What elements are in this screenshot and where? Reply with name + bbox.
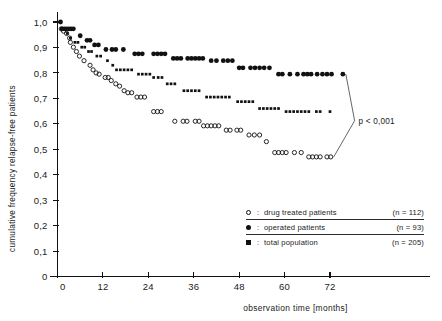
p-value-annotation: p < 0,001 xyxy=(359,117,395,126)
marker-cross xyxy=(170,82,173,85)
marker-cross xyxy=(205,96,208,99)
marker-cross xyxy=(137,73,140,76)
x-tick-label: 36 xyxy=(188,281,199,292)
marker-cross xyxy=(77,41,80,44)
marker-cross xyxy=(69,37,72,40)
marker-cross xyxy=(148,73,151,76)
legend-count-drug-treated: (n = 112) xyxy=(389,208,424,217)
marker-filled-circle xyxy=(248,65,253,70)
marker-filled-circle xyxy=(71,26,76,31)
marker-cross xyxy=(152,76,155,79)
marker-open-circle xyxy=(117,84,121,88)
marker-cross xyxy=(66,32,69,35)
marker-cross xyxy=(123,68,126,71)
marker-cross xyxy=(240,100,243,103)
x-tick-label: 72 xyxy=(325,281,336,292)
marker-cross xyxy=(209,96,212,99)
marker-open-circle xyxy=(252,133,256,137)
y-tick-label: 1,0 xyxy=(34,17,48,28)
marker-cross xyxy=(161,76,164,79)
legend-count-total-population: (n = 205) xyxy=(388,238,424,247)
marker-cross xyxy=(329,110,332,113)
marker-cross xyxy=(289,110,292,113)
marker-cross xyxy=(106,59,109,62)
marker-cross xyxy=(266,107,269,110)
marker-filled-circle xyxy=(340,72,345,77)
x-tick-label: 0 xyxy=(60,281,65,292)
marker-filled-circle xyxy=(200,56,205,61)
y-axis-title: cumulative frequency relapse-free patien… xyxy=(8,85,17,252)
y-tick-label: 0,2 xyxy=(34,220,48,231)
p-value-label: p < 0,001 xyxy=(359,117,395,126)
marker-cross xyxy=(262,107,265,110)
marker-filled-circle xyxy=(280,72,285,77)
marker-open-circle xyxy=(247,133,251,137)
p-value-leader-lines xyxy=(334,74,355,157)
marker-cross xyxy=(315,110,318,113)
marker-cross xyxy=(307,110,310,113)
marker-cross xyxy=(74,41,77,44)
marker-filled-circle xyxy=(320,72,325,77)
marker-cross xyxy=(224,96,227,99)
marker-cross xyxy=(270,107,273,110)
marker-open-circle xyxy=(68,40,72,44)
marker-filled-circle xyxy=(209,58,214,63)
marker-cross xyxy=(319,110,322,113)
legend-label-total-population: total population xyxy=(264,238,388,247)
data-series-group xyxy=(58,20,345,159)
marker-cross xyxy=(145,73,148,76)
y-tick-label: 0 xyxy=(42,271,47,282)
marker-cross xyxy=(273,107,276,110)
x-tick-label: 48 xyxy=(234,281,245,292)
legend-separator-1: : xyxy=(257,208,264,217)
marker-filled-circle xyxy=(214,58,219,63)
marker-filled-circle xyxy=(58,20,63,25)
marker-open-circle xyxy=(74,49,78,53)
marker-cross xyxy=(157,76,160,79)
marker-cross xyxy=(285,110,288,113)
marker-cross xyxy=(236,100,239,103)
marker-filled-circle xyxy=(78,33,83,38)
marker-filled-circle xyxy=(253,65,258,70)
marker-open-circle xyxy=(258,133,262,137)
marker-filled-circle xyxy=(295,72,300,77)
marker-filled-circle xyxy=(88,38,93,43)
y-tick-label: 0,3 xyxy=(34,195,48,206)
x-axis-title-text: observation time [months] xyxy=(243,303,348,313)
marker-cross xyxy=(213,96,216,99)
p-value-leader-line xyxy=(346,74,355,121)
marker-filled-circle xyxy=(329,72,334,77)
marker-cross xyxy=(99,55,102,58)
y-axis-title-wrapper: cumulative frequency relapse-free patien… xyxy=(6,62,20,252)
marker-cross xyxy=(304,110,307,113)
marker-cross xyxy=(198,89,201,92)
legend-item-total-population: : total population (n = 205) xyxy=(246,235,424,249)
marker-open-circle xyxy=(264,140,268,144)
marker-open-circle xyxy=(71,45,75,49)
legend-item-drug-treated: : drug treated patients (n = 112) xyxy=(246,205,424,220)
marker-cross xyxy=(292,110,295,113)
marker-cross xyxy=(248,100,251,103)
marker-filled-circle xyxy=(262,65,267,70)
legend-count-operated: (n = 93) xyxy=(392,223,424,232)
legend: : drug treated patients (n = 112) : oper… xyxy=(246,205,424,249)
marker-open-circle xyxy=(299,150,303,154)
marker-filled-circle xyxy=(325,72,330,77)
marker-cross xyxy=(96,55,99,58)
marker-cross xyxy=(300,110,303,113)
marker-filled-circle xyxy=(104,47,109,52)
marker-cross xyxy=(190,89,193,92)
y-tick-label: 0,7 xyxy=(34,93,48,104)
marker-cross xyxy=(186,89,189,92)
marker-filled-circle xyxy=(225,58,230,63)
marker-cross xyxy=(83,46,86,49)
p-value-leader-line xyxy=(334,121,355,157)
y-tick-label: 0,9 xyxy=(34,42,48,53)
plot-canvas: 00,10,20,30,40,50,60,70,80,91,0012243648… xyxy=(0,0,442,321)
open-circle-icon xyxy=(246,208,257,217)
marker-cross xyxy=(141,73,144,76)
cross-marker-icon xyxy=(246,238,257,247)
marker-cross xyxy=(258,107,261,110)
marker-filled-circle xyxy=(287,72,292,77)
marker-cross xyxy=(228,96,231,99)
